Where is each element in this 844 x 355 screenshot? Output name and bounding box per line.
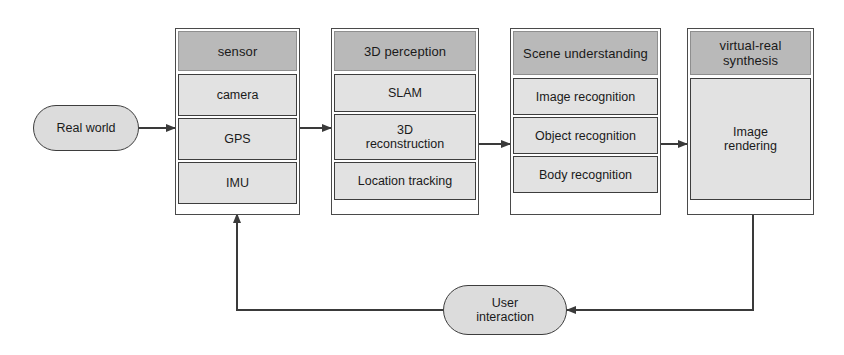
node-user-interaction[interactable]: User interaction <box>443 285 567 335</box>
stage-scene-understanding-header: Scene understanding <box>513 31 658 75</box>
stage-scene-understanding-body: Image recognition Object recognition Bod… <box>513 75 658 212</box>
stage-item-slam[interactable]: SLAM <box>334 74 476 112</box>
stage-3d-perception-body: SLAM 3D reconstruction Location tracking <box>334 71 476 212</box>
stage-3d-perception[interactable]: 3D perception SLAM 3D reconstruction Loc… <box>331 28 479 215</box>
stage-item-object-recognition[interactable]: Object recognition <box>513 117 658 154</box>
stage-item-gps[interactable]: GPS <box>178 118 297 160</box>
stage-virtual-real-synthesis[interactable]: virtual-real synthesis Image rendering <box>687 28 814 215</box>
stage-item-camera[interactable]: camera <box>178 74 297 116</box>
stage-virtual-real-synthesis-body: Image rendering <box>690 75 811 212</box>
stage-item-location-tracking[interactable]: Location tracking <box>334 162 476 200</box>
stage-item-body-recognition[interactable]: Body recognition <box>513 156 658 193</box>
pipeline-diagram: Real world sensor camera GPS IMU 3D perc… <box>0 0 844 355</box>
wire-synthesis-to-user <box>567 215 753 310</box>
stage-sensor-body: camera GPS IMU <box>178 71 297 212</box>
stage-sensor-header: sensor <box>178 31 297 71</box>
node-user-interaction-label: User interaction <box>476 296 534 324</box>
stage-item-image-recognition[interactable]: Image recognition <box>513 78 658 115</box>
stage-item-3d-reconstruction[interactable]: 3D reconstruction <box>334 114 476 160</box>
stage-item-image-rendering[interactable]: Image rendering <box>690 78 811 200</box>
stage-3d-perception-header: 3D perception <box>334 31 476 71</box>
stage-scene-understanding[interactable]: Scene understanding Image recognition Ob… <box>510 28 661 215</box>
node-real-world[interactable]: Real world <box>33 105 139 151</box>
node-real-world-label: Real world <box>56 121 115 135</box>
stage-item-imu[interactable]: IMU <box>178 162 297 204</box>
wire-user-to-sensor <box>237 214 443 310</box>
stage-sensor[interactable]: sensor camera GPS IMU <box>175 28 300 215</box>
stage-virtual-real-synthesis-header: virtual-real synthesis <box>690 31 811 75</box>
